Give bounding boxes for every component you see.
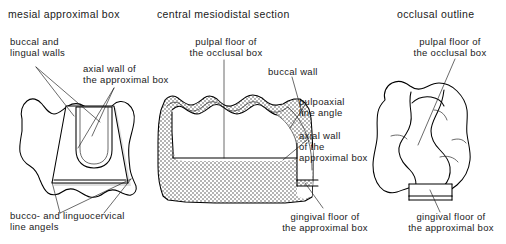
- left-tooth-drawing: [20, 67, 137, 213]
- label-gingival-floor-right: gingival floor of the approximal box: [396, 211, 506, 233]
- right-tooth-occlusal: [373, 59, 470, 212]
- figure-canvas: mesial approximal box central mesiodista…: [0, 0, 506, 244]
- panel-title-left: mesial approximal box: [8, 8, 120, 20]
- label-axial-wall-left: axial wall of the approximal box: [83, 63, 169, 85]
- label-buccal-wall: buccal wall: [268, 66, 318, 77]
- label-buccal-and-lingual-walls: buccal and lingual walls: [10, 36, 65, 58]
- label-pulpal-floor-center: pulpal floor of the occlusal box: [178, 36, 274, 58]
- label-pulpoaxial-line-angle: pulpoaxial line angle: [299, 96, 345, 118]
- label-pulpal-floor-right: pulpal floor of the occlusal box: [398, 36, 502, 58]
- label-gingival-floor-center: gingival floor of the approximal box: [258, 211, 392, 233]
- panel-title-center: central mesiodistal section: [157, 8, 290, 20]
- panel-title-right: occlusal outline: [397, 8, 474, 20]
- label-axial-wall-center: axial wall of the approximal box: [299, 130, 368, 163]
- label-bucco-linguocervical-line-angels: bucco- and linguocervical line angels: [10, 210, 125, 232]
